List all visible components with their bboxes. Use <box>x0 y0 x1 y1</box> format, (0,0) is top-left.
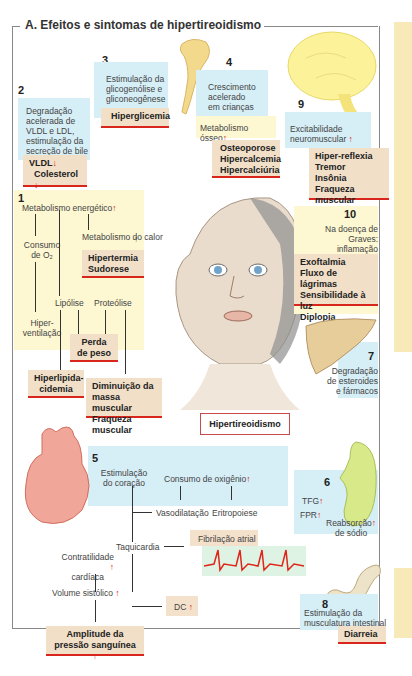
arrow <box>95 600 96 622</box>
result-line: Hipercalciúria <box>220 165 274 176</box>
heart-illustration <box>22 424 96 528</box>
result-line: Fraqueza muscular <box>92 414 156 436</box>
result-line: Osteoporose <box>220 143 274 154</box>
arrow <box>78 310 79 334</box>
erythropoiesis: Eritropoiese <box>212 508 257 518</box>
up-arrow-icon: ↑ <box>319 496 323 506</box>
text-line: do coração <box>100 478 148 488</box>
down-arrow-icon: ↓ <box>53 158 58 168</box>
section-number-6: 6 <box>324 476 330 488</box>
diagram-title: A. Efeitos e sintomas de hipertireoidism… <box>22 18 264 32</box>
up-arrow-icon: ↑ <box>134 234 138 244</box>
text-line: glicogenólise e <box>106 84 168 94</box>
up-arrow-icon: ↑ <box>349 134 353 144</box>
result-line: Exoftalmia <box>300 257 372 268</box>
result-line: Hiper-reflexia <box>315 151 383 162</box>
up-arrow-icon: ↑ <box>110 562 114 572</box>
up-arrow-icon: ↑ <box>246 474 250 484</box>
section-number-2: 2 <box>18 84 24 96</box>
section-number-10: 10 <box>344 208 356 220</box>
arrow <box>105 310 106 334</box>
rpf: FPR↑ <box>300 510 321 520</box>
o2-consumption: Consumo de O₂ <box>22 240 62 260</box>
text-line: Contratilidade <box>62 552 114 562</box>
text-line: neuromuscular <box>290 134 346 144</box>
text-line: Reabsorção <box>326 518 372 528</box>
result-line: de peso <box>76 348 112 359</box>
pulse-pressure-result: Amplitude da pressão sanguínea ↑ <box>46 626 144 656</box>
hyperventilation: Hiper-ventilação <box>22 318 62 338</box>
result-line: Diminuição da <box>92 381 156 392</box>
text-line: gliconeogênese <box>106 94 168 104</box>
heart-stimulation: Estimulação do coração <box>100 468 148 488</box>
section-2-box: Degradação acelerada de VLDL e LDL, esti… <box>18 98 90 160</box>
result-line: Hipertermia <box>88 253 138 264</box>
vasodilation: Vasodilatação <box>156 508 209 518</box>
up-arrow-icon: ↑ <box>189 602 193 612</box>
oxygen-consumption: Consumo de oxigênio↑ <box>164 474 250 484</box>
result-line: Sensibilidade à luz <box>300 290 372 312</box>
section-4-result: Osteoporose Hipercalcemia Hipercalciúria <box>212 140 280 178</box>
section-8-text: Estimulação da musculatura intestinal <box>304 608 386 628</box>
hyperlipidemia-result: Hiperlipida- cidemia <box>28 370 84 398</box>
arrow <box>132 486 133 542</box>
arrow <box>60 310 61 370</box>
section-7-text: Degradação de esteroides e fármacos <box>316 366 378 396</box>
text-line: de esteroides <box>316 376 378 386</box>
text-line: Degradação <box>26 106 90 116</box>
section-number-9: 9 <box>298 98 304 110</box>
text-line: Estimulação <box>100 468 148 478</box>
result-line: Insônia <box>315 173 383 184</box>
face-illustration <box>160 184 310 410</box>
kidney-illustration <box>336 440 378 530</box>
atrial-fibrillation-label: Fibrilação atrial <box>190 530 258 546</box>
arrow <box>35 262 36 312</box>
text-line: Estimulação da <box>304 608 386 618</box>
arrow <box>35 214 36 236</box>
lipolysis: Lipólise <box>55 298 84 308</box>
tachycardia: Taquicardia <box>116 542 159 552</box>
stroke-volume: Volume sistólico ↑ <box>52 588 120 598</box>
arrow <box>59 210 60 296</box>
text-line: Metabolismo energético <box>22 203 112 213</box>
up-arrow-icon: ↑ <box>93 651 98 661</box>
result-line: Fraqueza muscular <box>315 184 383 206</box>
text-line: DC <box>174 602 186 612</box>
text-line: em crianças <box>208 102 268 112</box>
result-line: Amplitude da <box>52 629 138 640</box>
section-8-result: Diarreia <box>338 626 386 644</box>
result-line: pressão sanguínea <box>54 640 136 650</box>
muscle-result: Diminuição da massa muscular Fraqueza mu… <box>86 378 162 418</box>
section-number-4: 4 <box>226 56 232 68</box>
sodium-reabsorption: Reabsorção↑ de sódio <box>326 518 376 538</box>
cardiac-contractility: Contratilidade ↑ cardíaca <box>58 552 114 582</box>
text-line: Excitabilidade <box>290 124 371 134</box>
arrow <box>132 512 152 513</box>
section-number-5: 5 <box>92 452 98 464</box>
cardiac-output: DC ↑ <box>166 596 198 616</box>
result-line: Hiperlipida- <box>34 373 78 384</box>
text-line: acelerado <box>208 92 268 102</box>
heat-result: Hipertermia Sudorese <box>82 250 144 278</box>
text-line: VLDL e LDL, <box>26 126 90 136</box>
bone-metabolism: Metabolismo ósseo↑ <box>196 116 276 138</box>
down-arrow-icon: ↓ <box>34 180 39 190</box>
gfr: TFG↑ <box>302 496 323 506</box>
text-line: Estimulação da <box>106 74 168 84</box>
text-line: FPR <box>300 510 317 520</box>
section-9-box: Excitabilidade neuromuscular ↑ <box>285 112 371 148</box>
energy-metabolism: Metabolismo energético↑ <box>22 203 117 213</box>
text-line: cardíaca <box>58 572 114 582</box>
ecg-trace <box>202 546 306 576</box>
text-line: e fármacos <box>316 386 378 396</box>
result-line: Sudorese <box>88 264 138 275</box>
text-line: Crescimento <box>208 82 268 92</box>
arrow <box>132 606 162 607</box>
section-2-result: VLDL↓ Colesterol ↓ <box>23 155 87 187</box>
side-strip <box>394 22 412 352</box>
up-arrow-icon: ↑ <box>112 203 116 213</box>
arrow <box>180 486 181 500</box>
result-line: Fluxo de lágrimas <box>300 268 372 290</box>
result-line: massa muscular <box>92 392 156 414</box>
text-line: Consumo de oxigênio <box>164 474 246 484</box>
